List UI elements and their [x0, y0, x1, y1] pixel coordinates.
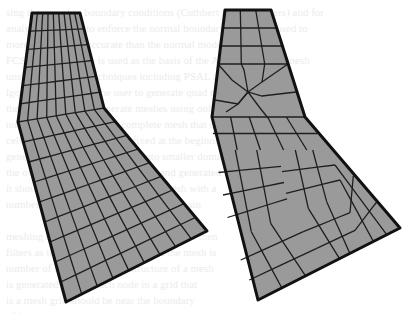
structured-mesh-panel [18, 13, 207, 302]
mesh-figure [0, 0, 417, 314]
unstructured-mesh-panel [212, 10, 400, 300]
unstructured-mesh-domain [212, 10, 400, 300]
